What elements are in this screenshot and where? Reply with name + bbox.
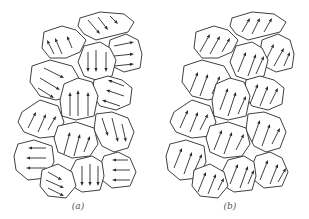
domain-grain: [212, 78, 250, 120]
grain-outline: [206, 122, 250, 158]
domain-grain: [60, 78, 98, 120]
grain-outline: [60, 78, 98, 120]
domain-grain: [100, 152, 136, 188]
domain-grain: [230, 42, 268, 80]
domain-grain: [40, 164, 76, 198]
grain-outline: [244, 76, 284, 110]
domain-grain: [246, 112, 286, 152]
domain-grain: [206, 122, 250, 158]
domain-grain: [92, 76, 132, 110]
panel-a-random-domains: [14, 12, 142, 198]
grain-outline: [194, 26, 238, 58]
panel-b-aligned-domains: [166, 12, 294, 198]
domain-grain: [194, 26, 238, 58]
domain-grain: [252, 152, 288, 188]
caption-b: (b): [215, 201, 245, 211]
domain-grain: [78, 42, 116, 80]
domain-grain: [192, 164, 228, 198]
grain-outline: [78, 42, 116, 80]
grain-outline: [252, 152, 288, 188]
domain-grain: [42, 26, 86, 58]
grain-outline: [54, 122, 98, 158]
domain-grain: [244, 76, 284, 110]
grain-outline: [246, 112, 286, 152]
domain-grain: [54, 122, 98, 158]
domain-diagram: [0, 0, 309, 219]
caption-a: (a): [63, 201, 93, 211]
domain-grain: [94, 112, 134, 152]
grain-outline: [94, 112, 134, 152]
